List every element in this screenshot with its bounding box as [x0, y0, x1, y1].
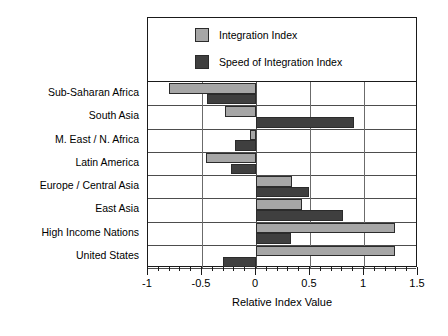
axis-tick-major — [201, 267, 202, 275]
y-axis-label-1: South Asia — [89, 104, 139, 127]
legend-swatch-icon-speed-of-integration-index — [195, 55, 209, 69]
bar-integration-index-2 — [250, 130, 256, 141]
gridline-vertical — [310, 82, 311, 268]
axis-tick-minor — [190, 267, 191, 271]
axis-tick-major — [363, 267, 364, 275]
y-axis-category-labels: Sub-Saharan Africa South Asia M. East / … — [0, 81, 143, 267]
axis-tick-minor — [341, 267, 342, 271]
axis-tick-minor — [395, 267, 396, 271]
chart-legend: Integration Index Speed of Integration I… — [148, 18, 416, 82]
bar-speed-of-integration-index-5 — [256, 210, 343, 221]
bar-integration-index-3 — [206, 153, 256, 164]
x-axis-tick-label-2: 0 — [252, 277, 258, 289]
axis-tick-major — [255, 267, 256, 275]
legend-item-integration-index: Integration Index — [195, 28, 297, 42]
bar-speed-of-integration-index-2 — [235, 140, 256, 151]
axis-tick-minor — [374, 267, 375, 271]
axis-tick-minor — [169, 267, 170, 271]
axis-tick-minor — [158, 267, 159, 271]
bar-integration-index-0 — [169, 83, 256, 94]
bar-speed-of-integration-index-7 — [223, 257, 256, 268]
legend-label-integration-index: Integration Index — [219, 29, 297, 41]
bar-speed-of-integration-index-3 — [231, 164, 256, 175]
legend-item-speed-of-integration-index: Speed of Integration Index — [195, 55, 342, 69]
bar-speed-of-integration-index-6 — [256, 233, 291, 244]
axis-tick-minor — [244, 267, 245, 271]
x-axis-tick-label-5: 1.5 — [409, 277, 424, 289]
x-axis-ticks — [147, 267, 417, 276]
bar-speed-of-integration-index-4 — [256, 187, 309, 198]
gridline-vertical — [364, 82, 365, 268]
axis-tick-minor — [320, 267, 321, 271]
y-axis-label-3: Latin America — [75, 151, 139, 174]
bar-chart: Sub-Saharan Africa South Asia M. East / … — [0, 0, 448, 336]
bar-integration-index-1 — [225, 106, 256, 117]
gridline-horizontal — [148, 152, 416, 153]
legend-swatch-icon-integration-index — [195, 28, 209, 42]
axis-tick-minor — [352, 267, 353, 271]
axis-tick-minor — [179, 267, 180, 271]
bar-integration-index-7 — [256, 246, 395, 257]
y-axis-label-4: Europe / Central Asia — [40, 174, 139, 197]
bar-integration-index-6 — [256, 223, 395, 234]
x-axis-title: Relative Index Value — [147, 296, 417, 308]
axis-tick-minor — [212, 267, 213, 271]
gridline-horizontal — [148, 105, 416, 106]
bar-integration-index-5 — [256, 199, 302, 210]
axis-tick-minor — [385, 267, 386, 271]
y-axis-label-7: United States — [76, 244, 139, 267]
axis-tick-minor — [223, 267, 224, 271]
y-axis-label-6: High Income Nations — [42, 221, 139, 244]
x-axis-tick-label-0: -1 — [142, 277, 152, 289]
axis-tick-major — [147, 267, 148, 275]
x-axis-tick-label-3: 0.5 — [301, 277, 316, 289]
axis-tick-minor — [266, 267, 267, 271]
x-axis-tick-label-4: 1 — [360, 277, 366, 289]
axis-tick-minor — [406, 267, 407, 271]
axis-tick-minor — [277, 267, 278, 271]
x-axis-tick-label-1: -0.5 — [192, 277, 211, 289]
bar-speed-of-integration-index-1 — [256, 117, 354, 128]
axis-tick-major — [309, 267, 310, 275]
plot-rows — [148, 82, 416, 268]
plot-area: Integration Index Speed of Integration I… — [147, 17, 417, 267]
axis-tick-major — [417, 267, 418, 275]
axis-tick-minor — [331, 267, 332, 271]
y-axis-label-5: East Asia — [95, 197, 139, 220]
y-axis-label-0: Sub-Saharan Africa — [48, 81, 139, 104]
x-axis-tick-labels: -1-0.500.511.5 — [147, 277, 417, 293]
axis-tick-minor — [287, 267, 288, 271]
gridline-vertical — [202, 82, 203, 268]
axis-tick-minor — [233, 267, 234, 271]
bar-speed-of-integration-index-0 — [207, 94, 256, 105]
legend-label-speed-of-integration-index: Speed of Integration Index — [219, 56, 342, 68]
bar-integration-index-4 — [256, 176, 292, 187]
axis-tick-minor — [298, 267, 299, 271]
gridline-horizontal — [148, 129, 416, 130]
y-axis-label-2: M. East / N. Africa — [55, 128, 139, 151]
